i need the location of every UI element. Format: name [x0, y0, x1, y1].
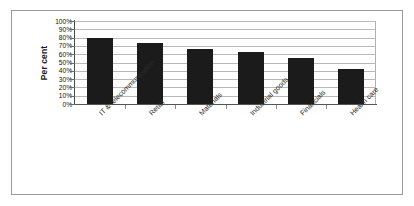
y-axis-tick-label: 60%: [38, 51, 72, 58]
y-axis-tick-label: 90%: [38, 26, 72, 33]
y-axis-tick-mark: [70, 46, 75, 47]
y-axis-tick-label: 80%: [38, 34, 72, 41]
y-axis-tick-label: 70%: [38, 42, 72, 49]
x-axis-tick-mark: [326, 105, 327, 109]
bar[interactable]: [87, 38, 113, 104]
y-axis-tick-mark: [70, 54, 75, 55]
gridline: [75, 63, 375, 64]
x-axis-tick-mark: [276, 105, 277, 109]
y-axis-tick-mark: [70, 38, 75, 39]
y-axis-tick-mark: [70, 79, 75, 80]
y-axis-tick-label: 0%: [38, 101, 72, 108]
gridline: [75, 29, 375, 30]
x-axis-tick-mark: [125, 105, 126, 109]
y-axis-tick-label: 50%: [38, 59, 72, 66]
y-axis-tick-mark: [70, 96, 75, 97]
y-axis-tick-mark: [70, 104, 75, 105]
chart-figure: Per cent 100%90%80%70%60%50%40%30%20%10%…: [0, 0, 414, 206]
y-axis-tick-mark: [70, 87, 75, 88]
x-axis-tick-mark: [175, 105, 176, 109]
x-axis-tick-mark: [226, 105, 227, 109]
y-axis-tick-labels: 100%90%80%70%60%50%40%30%20%10%0%: [38, 17, 72, 109]
y-axis-tick-label: 100%: [38, 18, 72, 25]
gridline: [75, 54, 375, 55]
y-axis-tick-label: 40%: [38, 67, 72, 74]
gridline: [75, 71, 375, 72]
y-axis-tick-label: 20%: [38, 84, 72, 91]
gridline: [75, 79, 375, 80]
y-axis-tick-label: 30%: [38, 76, 72, 83]
gridline: [75, 46, 375, 47]
bar[interactable]: [187, 49, 213, 104]
y-axis-tick-label: 10%: [38, 92, 72, 99]
gridline: [75, 38, 375, 39]
y-axis-tick-mark: [70, 63, 75, 64]
gridline: [75, 21, 375, 22]
y-axis-tick-mark: [70, 29, 75, 30]
y-axis-tick-mark: [70, 71, 75, 72]
y-axis-tick-mark: [70, 21, 75, 22]
bar[interactable]: [238, 52, 264, 104]
bar[interactable]: [288, 58, 314, 104]
